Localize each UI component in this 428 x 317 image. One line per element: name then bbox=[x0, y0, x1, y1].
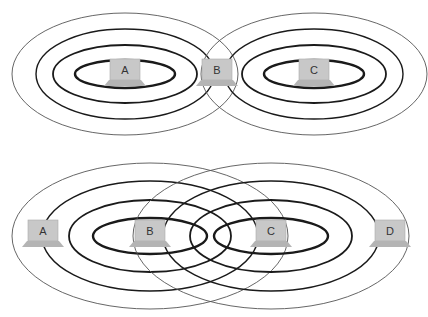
station-label: B bbox=[146, 225, 153, 237]
station-label: D bbox=[386, 225, 394, 237]
laptop-station-d: D bbox=[369, 220, 411, 247]
laptop-base-icon bbox=[293, 80, 335, 86]
laptop-station-a: A bbox=[22, 220, 64, 247]
top-diagram: ABC bbox=[12, 13, 427, 135]
bottom-diagram: ABCD bbox=[12, 163, 411, 309]
laptop-station-c: C bbox=[293, 59, 335, 86]
laptop-station-b: B bbox=[129, 220, 171, 247]
laptop-base-icon bbox=[104, 80, 146, 86]
station-label: C bbox=[310, 64, 318, 76]
station-label: A bbox=[39, 225, 47, 237]
station-label: B bbox=[213, 64, 220, 76]
laptop-station-b: B bbox=[196, 59, 238, 86]
range-diagram-canvas: ABC ABCD bbox=[0, 0, 428, 317]
laptop-base-icon bbox=[196, 80, 238, 86]
laptop-base-icon bbox=[129, 241, 171, 247]
bottom-range-rings bbox=[12, 163, 409, 309]
station-label: C bbox=[267, 225, 275, 237]
laptop-base-icon bbox=[369, 241, 411, 247]
laptop-station-c: C bbox=[250, 220, 292, 247]
laptop-station-a: A bbox=[104, 59, 146, 86]
top-stations: ABC bbox=[104, 59, 335, 86]
laptop-base-icon bbox=[22, 241, 64, 247]
station-label: A bbox=[121, 64, 129, 76]
laptop-base-icon bbox=[250, 241, 292, 247]
